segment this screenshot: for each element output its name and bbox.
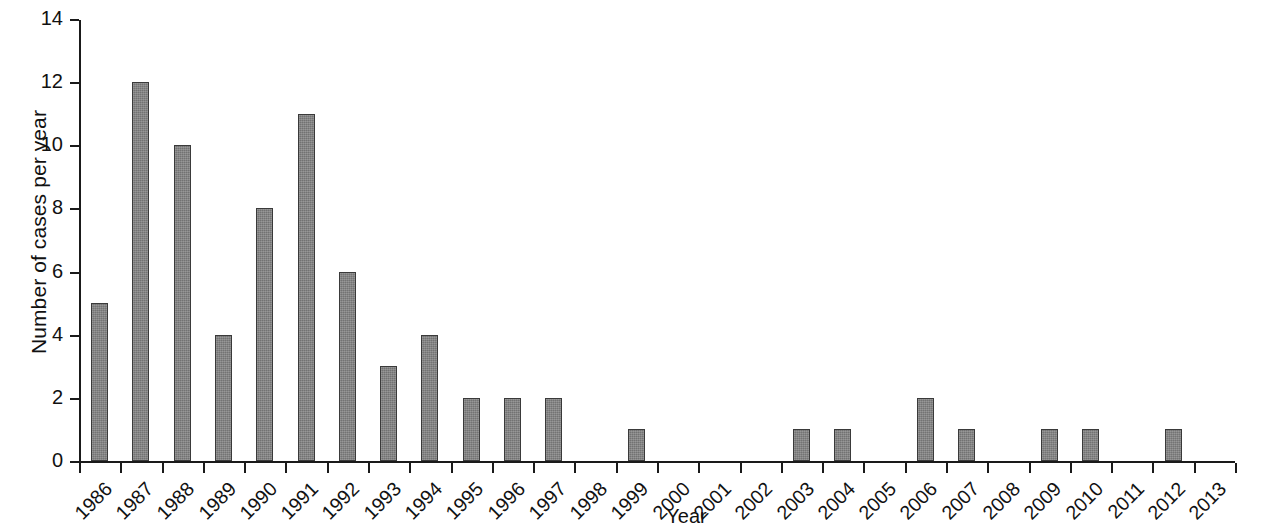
y-axis-tick: 2 — [70, 398, 79, 400]
bar — [463, 398, 480, 461]
bars-layer — [79, 20, 1235, 462]
bar — [917, 398, 934, 461]
bar — [256, 208, 273, 461]
bar — [339, 272, 356, 461]
bar — [215, 335, 232, 461]
x-axis-title-text: Year — [666, 505, 706, 527]
x-axis-tick — [1235, 463, 1237, 473]
y-axis-tick: 8 — [70, 208, 79, 210]
bar — [298, 114, 315, 461]
y-axis-tick-label: 6 — [52, 261, 63, 281]
y-axis-tick-label: 4 — [52, 324, 63, 344]
bar-chart: Number of cases per year 02468101214 198… — [0, 0, 1273, 527]
x-axis-title: Year — [0, 505, 1273, 527]
bar — [1041, 429, 1058, 461]
bar — [174, 145, 191, 461]
y-axis-tick-label: 14 — [41, 8, 63, 28]
bar — [91, 303, 108, 461]
bar — [958, 429, 975, 461]
plot-area: 02468101214 — [79, 20, 1235, 462]
y-axis-tick: 10 — [70, 145, 79, 147]
bar — [1165, 429, 1182, 461]
y-axis-tick: 4 — [70, 335, 79, 337]
bar — [545, 398, 562, 461]
bar — [834, 429, 851, 461]
y-axis-tick: 6 — [70, 272, 79, 274]
y-axis-tick: 12 — [70, 82, 79, 84]
bar — [1082, 429, 1099, 461]
bar — [628, 429, 645, 461]
y-axis-tick-label: 10 — [41, 134, 63, 154]
y-axis-tick-label: 2 — [52, 387, 63, 407]
y-axis-tick-label: 8 — [52, 197, 63, 217]
bar — [421, 335, 438, 461]
y-axis-tick-label: 0 — [52, 450, 63, 470]
y-axis-tick: 14 — [70, 19, 79, 21]
bar — [504, 398, 521, 461]
y-axis-tick: 0 — [70, 461, 79, 463]
y-axis-tick-label: 12 — [41, 71, 63, 91]
bar — [793, 429, 810, 461]
bar — [132, 82, 149, 461]
bar — [380, 366, 397, 461]
